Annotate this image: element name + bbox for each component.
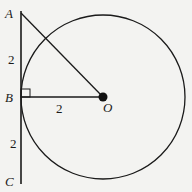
length-label-ab: 2 <box>8 52 15 67</box>
point-label-a: A <box>4 6 13 21</box>
point-label-b: B <box>5 90 13 105</box>
point-label-o: O <box>103 100 113 115</box>
length-label-bo: 2 <box>56 101 63 116</box>
point-label-c: C <box>5 174 14 189</box>
geometry-diagram: A B C O 2 2 2 <box>0 0 192 192</box>
right-angle-marker <box>21 89 30 97</box>
length-label-bc: 2 <box>10 136 17 151</box>
